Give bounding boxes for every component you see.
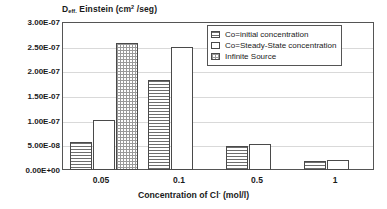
x-axis-title-main: Concentration of Cl <box>138 190 219 200</box>
bar <box>171 47 193 170</box>
bar <box>249 144 271 170</box>
legend-swatch-icon <box>211 42 220 49</box>
legend-item: Co=Steady-State concentration <box>211 40 336 51</box>
bar <box>148 80 170 170</box>
bar <box>116 43 138 170</box>
x-axis-tick-label: 1 <box>333 175 338 185</box>
bar-group <box>70 22 148 170</box>
legend-swatch-icon <box>211 31 220 38</box>
bar <box>70 142 92 170</box>
x-axis-title-tail: (mol/l) <box>221 190 249 200</box>
x-axis-tick-labels: 0.050.10.51 <box>62 170 374 190</box>
y-axis-tick-label: 2.50E-07 <box>2 42 60 51</box>
y-axis-tick-labels: 3.00E-072.50E-072.00E-071.50E-071.00E-07… <box>0 0 60 209</box>
x-axis-title: Concentration of Cl- (mol/l) <box>0 190 387 200</box>
y-axis-tick-label: 0.00E+00 <box>2 166 60 175</box>
y-axis-title-rest: Einstein (cm <box>77 4 131 14</box>
y-axis-title-tail: /seg) <box>134 4 157 14</box>
y-axis-title-subscript: eff. <box>68 8 77 14</box>
legend: Co=initial concentrationCo=Steady-State … <box>207 25 342 66</box>
bar-chart: Deff. Einstein (cm2 /seg) 3.00E-072.50E-… <box>0 0 387 209</box>
x-axis-tick-label: 0.5 <box>251 175 263 185</box>
y-axis-tick-label: 1.00E-07 <box>2 116 60 125</box>
legend-item: Infinite Source <box>211 51 336 62</box>
y-axis-tick-label: 2.00E-07 <box>2 67 60 76</box>
bar <box>327 160 349 170</box>
legend-item-label: Co=Steady-State concentration <box>225 42 336 50</box>
bar <box>304 161 326 170</box>
legend-swatch-icon <box>211 53 220 60</box>
x-axis-tick-label: 0.1 <box>173 175 185 185</box>
y-axis-tick-label: 3.00E-07 <box>2 18 60 27</box>
y-axis-tick-label: 1.50E-07 <box>2 92 60 101</box>
x-axis-tick-label: 0.05 <box>93 175 110 185</box>
y-axis-title: Deff. Einstein (cm2 /seg) <box>62 4 157 14</box>
bar <box>93 120 115 170</box>
bar <box>226 146 248 170</box>
y-axis-tick-label: 5.00E-08 <box>2 141 60 150</box>
legend-item-label: Infinite Source <box>225 53 276 61</box>
legend-item: Co=initial concentration <box>211 29 336 40</box>
legend-item-label: Co=initial concentration <box>225 31 308 39</box>
